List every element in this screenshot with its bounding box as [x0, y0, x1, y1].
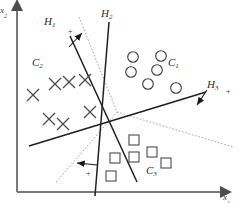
axis-group: [17, 9, 222, 192]
class-label-c3: C3: [146, 165, 157, 176]
class-label-c2: C2: [32, 57, 43, 68]
h3-normal-arrow: [197, 90, 207, 105]
h2-normal-arrow: [77, 163, 97, 165]
marker-circle: [128, 52, 139, 63]
marker-square: [147, 147, 157, 157]
marker-square: [106, 171, 116, 181]
marker-square: [161, 158, 171, 168]
marker-square: [110, 153, 120, 163]
diagram-svg: [0, 0, 239, 203]
marker-cross: [57, 118, 69, 130]
y-axis-label: x2: [0, 6, 7, 17]
marker-circle: [156, 51, 167, 62]
dotted-line-h3: [117, 112, 233, 147]
hyperplane-h2-line[interactable]: [95, 22, 109, 196]
marker-cross: [84, 106, 96, 118]
plus-near-h2-arrow: +: [86, 170, 91, 178]
marker-square: [129, 152, 139, 162]
figure-canvas: H1 H2 H3 C1 C2 C3 + + + x1 x2: [0, 0, 239, 203]
marker-cross: [27, 89, 39, 101]
hyperplane-label-h1: H1: [44, 16, 55, 27]
marker-circle: [126, 67, 137, 78]
x-axis-label: x1: [223, 193, 230, 203]
class-c3-markers: [106, 135, 171, 181]
hyperplane-group: [29, 22, 206, 196]
marker-cross: [49, 78, 61, 90]
marker-circle: [152, 65, 163, 76]
marker-circle: [171, 83, 182, 94]
hyperplane-label-h2: H2: [101, 8, 112, 19]
class-label-c1: C1: [168, 57, 179, 68]
plus-near-h1-arrow: +: [68, 28, 73, 36]
dotted-boundary-group: [56, 17, 233, 182]
marker-square: [129, 135, 139, 145]
plus-near-h3-arrow: +: [226, 88, 231, 96]
hyperplane-label-h3: H3: [207, 79, 218, 90]
marker-circle: [143, 79, 154, 90]
marker-cross: [79, 74, 91, 86]
class-c2-markers: [27, 74, 96, 130]
marker-cross: [63, 76, 75, 88]
hyperplane-h1-line[interactable]: [70, 36, 137, 182]
marker-cross: [43, 113, 55, 125]
